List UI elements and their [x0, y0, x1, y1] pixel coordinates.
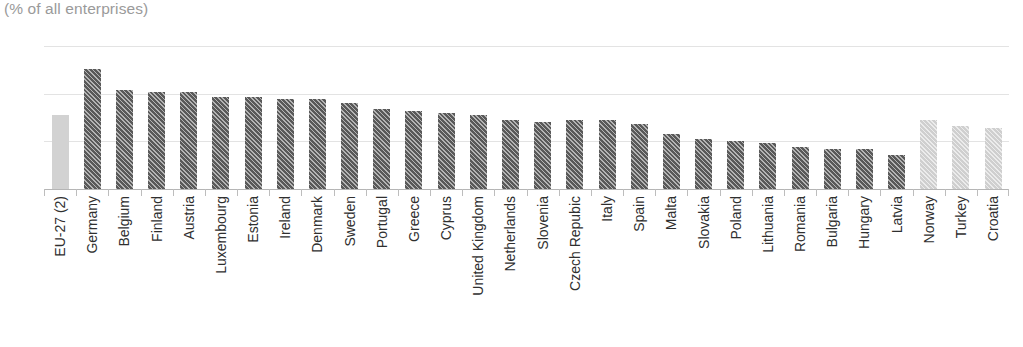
- x-axis-tick: [559, 189, 591, 196]
- chart-subtitle: (% of all enterprises): [4, 0, 148, 18]
- bar[interactable]: [631, 124, 648, 189]
- x-label-slot: Sweden: [334, 196, 366, 336]
- bar[interactable]: [148, 92, 165, 189]
- bar[interactable]: [759, 143, 776, 189]
- bar-slot: [913, 46, 945, 189]
- x-axis-label: Malta: [664, 196, 678, 230]
- x-label-slot: Malta: [655, 196, 687, 336]
- bar[interactable]: [727, 141, 744, 189]
- x-axis-tick: [784, 189, 816, 196]
- bar-slot: [44, 46, 76, 189]
- bar[interactable]: [599, 120, 616, 189]
- x-axis-label: Belgium: [117, 196, 131, 247]
- x-axis-label: Portugal: [375, 196, 389, 248]
- x-axis-label: Sweden: [343, 196, 357, 247]
- bar-slot: [591, 46, 623, 189]
- x-label-slot: Croatia: [977, 196, 1009, 336]
- bar[interactable]: [888, 155, 905, 189]
- bar-slot: [141, 46, 173, 189]
- x-axis-label: Greece: [407, 196, 421, 242]
- bar-slot: [366, 46, 398, 189]
- bar-slot: [655, 46, 687, 189]
- x-axis-label: Denmark: [310, 196, 324, 253]
- x-axis-labels: EU-27 (2)GermanyBelgiumFinlandAustriaLux…: [44, 196, 1009, 336]
- x-label-slot: Denmark: [301, 196, 333, 336]
- bar[interactable]: [180, 92, 197, 189]
- bar-slot: [205, 46, 237, 189]
- x-label-slot: Norway: [913, 196, 945, 336]
- x-axis-label: Luxembourg: [214, 196, 228, 274]
- plot-area: 0255075: [44, 46, 1009, 189]
- x-label-slot: Ireland: [269, 196, 301, 336]
- bar[interactable]: [534, 122, 551, 189]
- x-axis-tick: [366, 189, 398, 196]
- bar[interactable]: [856, 149, 873, 189]
- bar[interactable]: [373, 109, 390, 189]
- x-label-slot: Romania: [784, 196, 816, 336]
- x-label-slot: Greece: [398, 196, 430, 336]
- bar-slot: [623, 46, 655, 189]
- bar-series: [44, 46, 1009, 189]
- bar[interactable]: [438, 113, 455, 189]
- bar[interactable]: [84, 69, 101, 189]
- x-axis-tick: [430, 189, 462, 196]
- bar-slot: [945, 46, 977, 189]
- bar[interactable]: [212, 97, 229, 189]
- x-axis-label: Czech Repubic: [568, 196, 582, 291]
- x-label-slot: Bulgaria: [816, 196, 848, 336]
- bar[interactable]: [566, 120, 583, 189]
- bar-slot: [237, 46, 269, 189]
- bar[interactable]: [405, 111, 422, 189]
- bar[interactable]: [277, 99, 294, 189]
- x-axis-tick: [848, 189, 880, 196]
- x-axis-tick: [945, 189, 977, 196]
- x-label-slot: United Kingdom: [462, 196, 494, 336]
- x-axis-tick: [494, 189, 526, 196]
- bar[interactable]: [792, 147, 809, 189]
- bar-slot: [494, 46, 526, 189]
- x-axis-label: Spain: [632, 196, 646, 232]
- x-axis-label: Cyprus: [439, 196, 453, 240]
- x-axis-tick: [913, 189, 945, 196]
- bar[interactable]: [245, 97, 262, 189]
- bar[interactable]: [920, 120, 937, 189]
- x-label-slot: Slovakia: [687, 196, 719, 336]
- bar[interactable]: [52, 115, 69, 189]
- x-axis-label: EU-27 (2): [53, 196, 67, 257]
- x-axis-tick: [44, 189, 76, 196]
- bar[interactable]: [470, 115, 487, 189]
- bar[interactable]: [824, 149, 841, 189]
- x-axis-label: Netherlands: [503, 196, 517, 272]
- x-label-slot: Netherlands: [494, 196, 526, 336]
- x-axis-label: Slovakia: [697, 196, 711, 249]
- bar[interactable]: [341, 103, 358, 189]
- bar-slot: [720, 46, 752, 189]
- x-axis-tick: [205, 189, 237, 196]
- bar[interactable]: [985, 128, 1002, 189]
- bar-slot: [527, 46, 559, 189]
- x-axis-tick: [591, 189, 623, 196]
- x-label-slot: Slovenia: [527, 196, 559, 336]
- bar-slot: [301, 46, 333, 189]
- bar[interactable]: [309, 99, 326, 189]
- bar[interactable]: [952, 126, 969, 189]
- x-axis-label: Bulgaria: [825, 196, 839, 247]
- x-axis-label: Lithuania: [761, 196, 775, 253]
- bar-slot: [430, 46, 462, 189]
- bar[interactable]: [502, 120, 519, 189]
- x-axis-tick: [816, 189, 848, 196]
- x-label-slot: Italy: [591, 196, 623, 336]
- bar[interactable]: [695, 139, 712, 189]
- x-axis-tick: [462, 189, 494, 196]
- x-axis-label: Romania: [793, 196, 807, 252]
- bar-slot: [76, 46, 108, 189]
- bar[interactable]: [663, 134, 680, 189]
- x-label-slot: Cyprus: [430, 196, 462, 336]
- bar[interactable]: [116, 90, 133, 189]
- bar-slot: [880, 46, 912, 189]
- x-label-slot: Estonia: [237, 196, 269, 336]
- x-label-slot: Hungary: [848, 196, 880, 336]
- x-axis-label: Estonia: [246, 196, 260, 243]
- x-label-slot: Lithuania: [752, 196, 784, 336]
- x-axis-label: Austria: [182, 196, 196, 240]
